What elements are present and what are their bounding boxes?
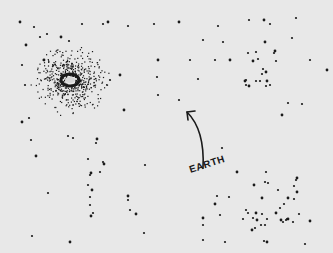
star: [87, 184, 89, 186]
star: [21, 64, 23, 66]
star: [264, 181, 266, 183]
star: [19, 21, 22, 24]
star: [153, 23, 155, 25]
star: [89, 174, 91, 176]
star: [282, 221, 284, 223]
star: [269, 23, 271, 25]
star: [91, 189, 94, 192]
star: [123, 109, 126, 112]
star: [217, 25, 219, 27]
star: [95, 142, 97, 144]
star: [197, 78, 199, 80]
star: [221, 147, 223, 149]
star: [266, 80, 269, 83]
star: [102, 23, 104, 25]
star: [292, 221, 294, 223]
star: [202, 217, 205, 220]
star: [202, 224, 204, 226]
star: [287, 197, 290, 200]
star: [224, 241, 226, 243]
star: [267, 182, 269, 184]
stars: [19, 17, 329, 245]
star: [21, 121, 24, 124]
star: [109, 79, 111, 81]
star: [261, 197, 264, 200]
star: [291, 37, 293, 39]
star: [157, 94, 159, 96]
star: [47, 192, 49, 194]
star: [202, 239, 204, 241]
star: [107, 21, 110, 24]
star: [252, 60, 255, 63]
star: [228, 196, 230, 198]
star: [214, 59, 216, 61]
star: [90, 215, 93, 218]
star: [265, 85, 267, 87]
star: [189, 59, 191, 61]
star: [156, 76, 158, 78]
star: [264, 41, 267, 44]
star: [24, 84, 26, 86]
star: [236, 171, 239, 174]
star: [277, 189, 279, 191]
star: [178, 21, 181, 24]
star: [265, 71, 268, 74]
star: [157, 59, 160, 62]
star: [301, 103, 303, 105]
star: [281, 114, 284, 117]
star: [96, 138, 99, 141]
star: [35, 155, 38, 158]
star: [219, 214, 221, 216]
star: [214, 203, 217, 206]
star: [33, 26, 35, 28]
star: [245, 209, 247, 211]
star: [68, 40, 70, 42]
star: [262, 68, 264, 70]
star: [129, 209, 131, 211]
star: [102, 161, 104, 163]
star: [279, 207, 281, 209]
star: [255, 51, 257, 53]
star: [275, 60, 277, 62]
star: [309, 59, 311, 61]
star: [30, 139, 32, 141]
star: [265, 171, 267, 173]
star: [248, 85, 251, 88]
star: [92, 212, 94, 214]
star: [222, 41, 224, 43]
star: [127, 25, 129, 27]
star: [67, 135, 69, 137]
star: [254, 227, 256, 229]
star: [275, 212, 278, 215]
star: [266, 218, 268, 220]
star: [81, 23, 83, 25]
star: [260, 224, 262, 226]
star: [28, 117, 30, 119]
star: [283, 203, 285, 205]
star: [143, 232, 145, 234]
star: [255, 212, 258, 215]
star: [25, 44, 28, 47]
star: [309, 220, 312, 223]
star: [287, 218, 290, 221]
star: [229, 59, 232, 62]
star: [60, 36, 63, 39]
star: [202, 39, 204, 41]
star: [216, 195, 218, 197]
galaxy-cluster: [31, 47, 110, 116]
star: [293, 198, 295, 200]
star: [69, 241, 72, 244]
star: [263, 240, 265, 242]
star: [263, 19, 266, 22]
star: [127, 199, 129, 201]
star: [256, 219, 259, 222]
star: [253, 184, 256, 187]
star: [144, 164, 146, 166]
star: [244, 80, 247, 83]
star: [298, 213, 300, 215]
star: [326, 69, 329, 72]
star: [99, 171, 101, 173]
star: [89, 204, 91, 206]
star: [287, 102, 289, 104]
star: [72, 137, 74, 139]
